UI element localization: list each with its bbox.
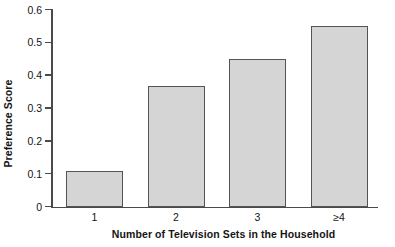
plot-area [52,10,378,207]
y-tick-mark [45,74,51,75]
bar [66,171,123,207]
bar [229,59,286,207]
x-axis-label: Number of Television Sets in the Househo… [52,228,395,240]
y-tick-label: 0.3 [27,102,42,114]
y-tick-label: 0.6 [27,4,42,16]
y-tick-label: 0.4 [27,69,42,81]
y-tick-mark [45,173,51,174]
y-tick-label: 0 [36,201,42,213]
y-tick-mark [45,206,51,207]
y-tick-mark [45,140,51,141]
x-tick-label: 2 [173,211,179,223]
y-axis-label: Preference Score [0,0,16,247]
y-tick-label: 0.5 [27,36,42,48]
y-tick-mark [45,42,51,43]
y-tick-mark [45,107,51,108]
x-tick-label: 1 [92,211,98,223]
x-tick-label: 3 [255,211,261,223]
y-tick-label: 0.1 [27,168,42,180]
bar [311,26,368,207]
y-tick-mark [45,9,51,10]
x-tick-label: ≥4 [333,211,345,223]
bar-chart: Preference Score 00.10.20.30.40.50.6 123… [0,0,395,247]
bar [148,86,205,207]
y-tick-label: 0.2 [27,135,42,147]
